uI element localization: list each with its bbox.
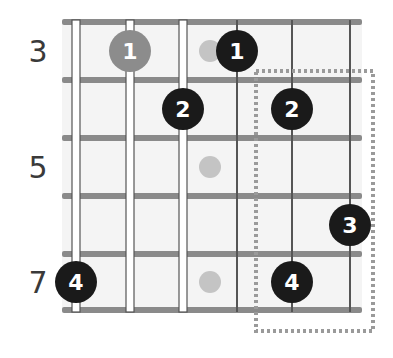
finger-number: 4 [68, 270, 83, 295]
finger-number: 3 [342, 213, 357, 238]
fret-line [62, 77, 362, 83]
fret-line [62, 193, 362, 199]
fret-line [62, 251, 362, 257]
wound-string [179, 20, 187, 312]
inlay-dot [199, 271, 221, 293]
fret-number-label: 5 [23, 153, 53, 183]
finger-number: 4 [284, 270, 299, 295]
finger-number: 1 [122, 39, 137, 64]
fret-line [62, 135, 362, 141]
finger-number: 1 [229, 39, 244, 64]
fretboard-diagram: 1122344 [0, 0, 393, 358]
inlay-dot [199, 156, 221, 178]
finger-number: 2 [175, 97, 190, 122]
fretboard-svg: 1122344 [0, 0, 393, 358]
fret-line [62, 19, 362, 25]
plain-string [349, 20, 351, 312]
fret-line [62, 307, 362, 313]
finger-number: 2 [284, 97, 299, 122]
fret-number-label: 7 [23, 268, 53, 298]
fret-number-label: 3 [23, 37, 53, 67]
